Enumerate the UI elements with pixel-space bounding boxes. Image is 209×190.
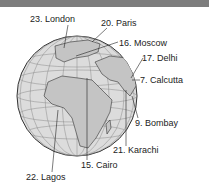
- city-label-london: 23. London: [30, 14, 75, 24]
- city-label-cairo: 15. Cairo: [81, 160, 118, 170]
- city-label-moscow: 16. Moscow: [119, 38, 167, 48]
- city-label-delhi: 17. Delhi: [142, 53, 178, 63]
- city-label-lagos: 22. Lagos: [26, 172, 66, 182]
- city-label-calcutta: 7. Calcutta: [140, 75, 183, 85]
- city-label-paris: 20. Paris: [101, 18, 137, 28]
- city-label-bombay: 9. Bombay: [135, 118, 178, 128]
- city-label-karachi: 21. Karachi: [113, 145, 159, 155]
